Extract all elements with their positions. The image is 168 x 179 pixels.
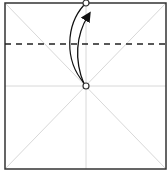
center-point-marker bbox=[83, 83, 89, 89]
origami-diagram bbox=[0, 0, 168, 179]
top-point-marker bbox=[83, 0, 89, 6]
